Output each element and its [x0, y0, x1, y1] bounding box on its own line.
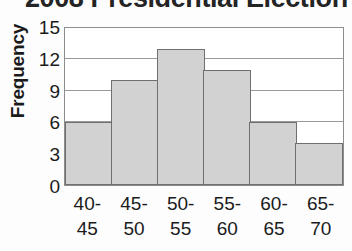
- chart-title-clip: 2008 Presidential Election: [0, 0, 352, 13]
- x-tick-label: 40-45: [64, 191, 111, 241]
- y-tick-label: 15: [26, 18, 60, 37]
- histogram-figure: 2008 Presidential Election Frequency 15 …: [0, 0, 352, 251]
- x-tick-label-line: 50-: [157, 191, 204, 216]
- x-tick-label-line: 65-: [297, 191, 344, 216]
- y-tick-label: 3: [26, 145, 60, 164]
- x-tick-label-line: 55-: [204, 191, 251, 216]
- bar: [203, 70, 251, 185]
- bar-series: [65, 28, 343, 185]
- x-tick-label-line: 55: [157, 216, 204, 241]
- bar: [65, 122, 113, 185]
- bar: [157, 49, 205, 185]
- x-tick-label: 50-55: [157, 191, 204, 241]
- x-tick-label-line: 65: [251, 216, 298, 241]
- x-tick-label: 45-50: [111, 191, 158, 241]
- bar: [111, 80, 159, 185]
- x-tick-label-line: 60-: [251, 191, 298, 216]
- bar: [295, 143, 343, 185]
- plot-area: [64, 27, 344, 186]
- y-tick-label: 9: [26, 81, 60, 100]
- y-tick-label: 0: [26, 177, 60, 196]
- x-tick-label: 60-65: [251, 191, 298, 241]
- x-tick-label-line: 60: [204, 216, 251, 241]
- x-tick-label: 55-60: [204, 191, 251, 241]
- y-axis-tick-labels: 15 12 9 6 3 0: [26, 27, 60, 186]
- y-tick-label: 6: [26, 113, 60, 132]
- x-tick-label-line: 70: [297, 216, 344, 241]
- x-tick-label-line: 45-: [111, 191, 158, 216]
- x-axis-tick-labels: 40-4545-5050-5555-6060-6565-70: [64, 191, 344, 241]
- chart-title: 2008 Presidential Election: [25, 0, 348, 13]
- x-tick-label-line: 50: [111, 216, 158, 241]
- x-tick-label-line: 40-: [64, 191, 111, 216]
- y-tick-label: 12: [26, 49, 60, 68]
- x-tick-label-line: 45: [64, 216, 111, 241]
- x-tick-label: 65-70: [297, 191, 344, 241]
- bar: [249, 122, 297, 185]
